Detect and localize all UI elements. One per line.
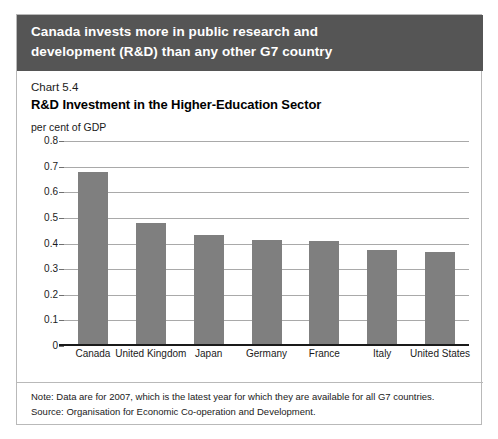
x-axis-tick-label: Canada (75, 348, 110, 359)
notes-block: Note: Data are for 2007, which is the la… (31, 389, 471, 419)
x-axis-baseline (59, 344, 469, 346)
y-axis-tick-label: 0.8 (44, 135, 58, 146)
y-axis-tick-label: 0.5 (44, 212, 58, 223)
bar (78, 172, 108, 346)
notes-divider (17, 382, 483, 383)
note-text: Note: Data are for 2007, which is the la… (31, 389, 471, 404)
bar (309, 241, 339, 346)
y-axis-tick-label: 0 (52, 340, 58, 351)
x-axis-tick-label: Italy (373, 348, 391, 359)
y-axis-tick-label: 0.2 (44, 289, 58, 300)
bar (194, 235, 224, 346)
chart-body: Chart 5.4 R&D Investment in the Higher-E… (17, 71, 483, 382)
x-axis-tick-label: Germany (246, 348, 287, 359)
bar (136, 223, 166, 346)
headline-line-2: development (R&D) than any other G7 coun… (31, 42, 469, 62)
x-axis-tick-label: United Kingdom (115, 348, 186, 359)
y-axis-tick-label: 0.1 (44, 314, 58, 325)
plot-area: 0.80.70.60.50.40.30.20.10 CanadaUnited K… (64, 141, 469, 346)
bar (252, 240, 282, 346)
figure-panel: Canada invests more in public research a… (16, 14, 482, 425)
chart-number: Chart 5.4 (31, 81, 78, 93)
x-axis-tick-label: France (309, 348, 340, 359)
y-axis-tick-label: 0.4 (44, 238, 58, 249)
x-axis-tick-label: United States (410, 348, 470, 359)
bar (367, 250, 397, 346)
y-axis-tick-label: 0.6 (44, 186, 58, 197)
y-axis-tick-label: 0.7 (44, 161, 58, 172)
x-axis-tick-label: Japan (195, 348, 222, 359)
headline-line-1: Canada invests more in public research a… (31, 22, 469, 42)
y-axis-unit-label: per cent of GDP (31, 121, 106, 133)
source-text: Source: Organisation for Economic Co-ope… (31, 404, 471, 419)
chart-screenshot: Canada invests more in public research a… (0, 0, 498, 439)
chart-title: R&D Investment in the Higher-Education S… (31, 97, 321, 112)
bar-series (64, 141, 469, 346)
y-axis-tick-mark (59, 346, 64, 347)
bar (425, 252, 455, 346)
y-axis-tick-label: 0.3 (44, 263, 58, 274)
headline-banner: Canada invests more in public research a… (17, 15, 483, 71)
